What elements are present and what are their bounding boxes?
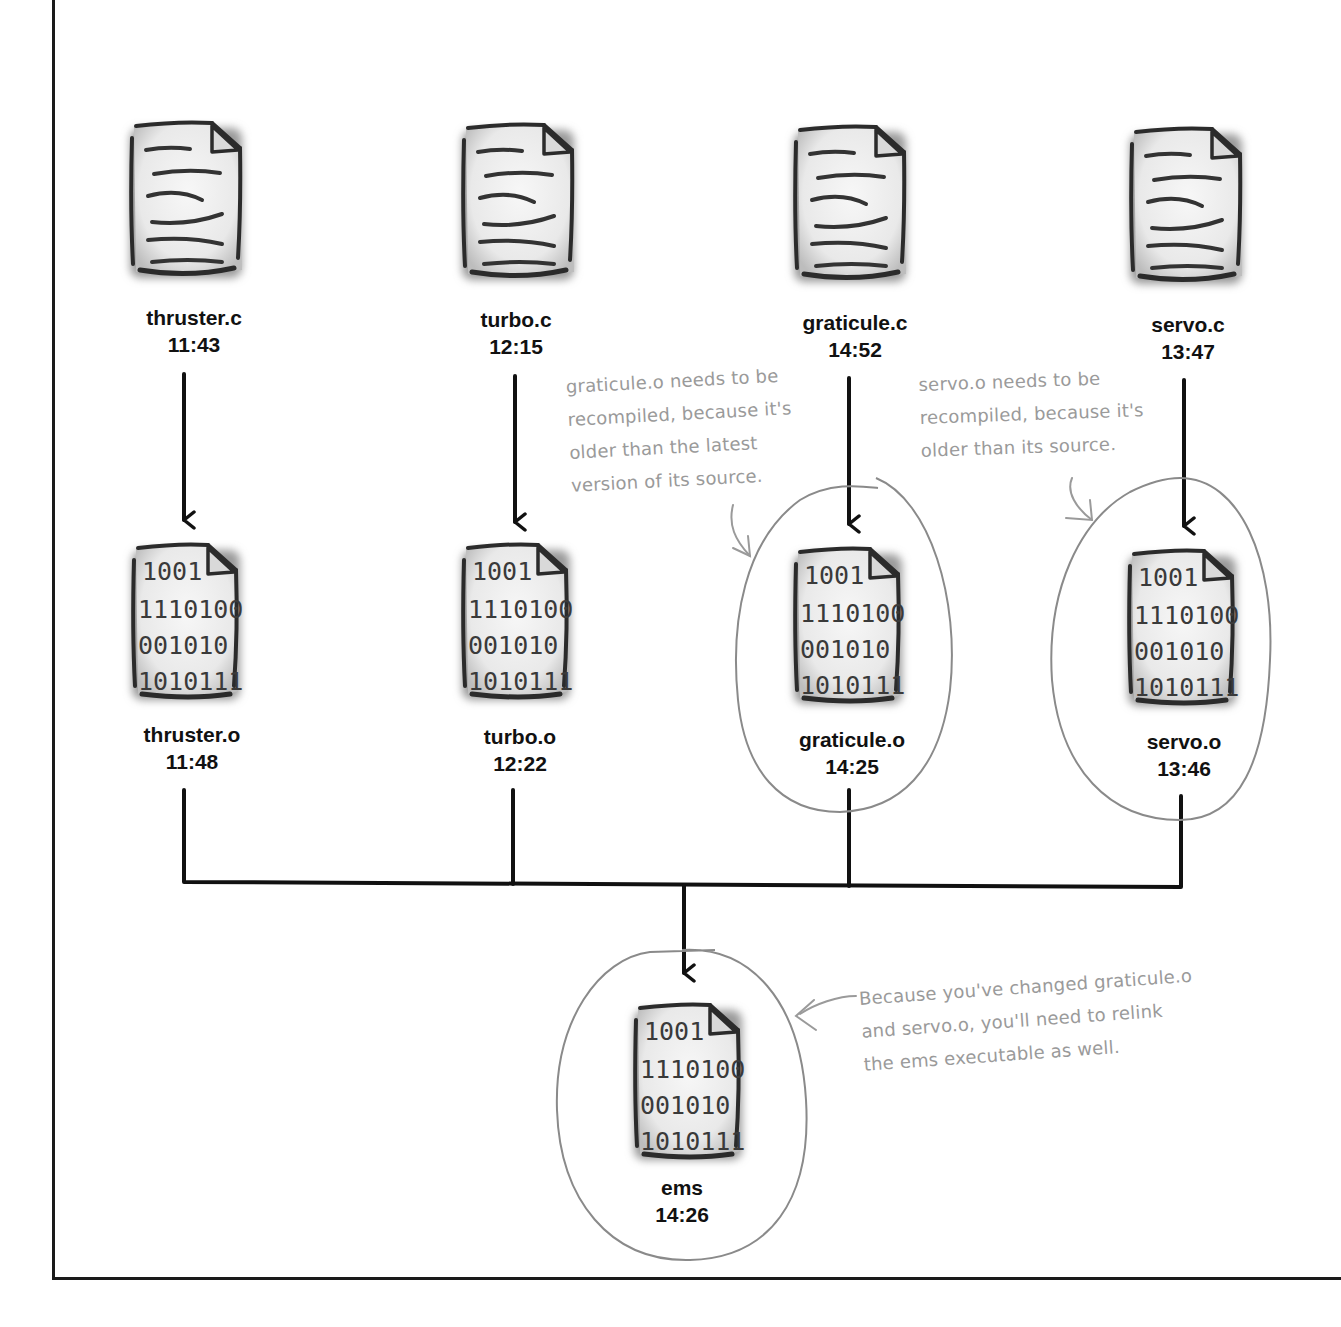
object-label-servo: servo.o 13:46 — [1084, 728, 1284, 782]
file-time: 12:15 — [416, 333, 616, 360]
source-label-thruster: thruster.c 11:43 — [94, 304, 294, 358]
file-time: 11:43 — [94, 331, 294, 358]
svg-text:001010: 001010 — [800, 635, 890, 664]
svg-text:001010: 001010 — [1134, 637, 1224, 666]
file-name: thruster.c — [94, 304, 294, 331]
file-name: ems — [582, 1174, 782, 1201]
file-time: 14:25 — [752, 753, 952, 780]
file-time: 11:48 — [92, 748, 292, 775]
svg-text:1110100: 1110100 — [1134, 601, 1239, 630]
svg-text:001010: 001010 — [640, 1091, 730, 1120]
object-label-thruster: thruster.o 11:48 — [92, 721, 292, 775]
svg-text:1010111: 1010111 — [468, 667, 573, 696]
svg-text:1010111: 1010111 — [1134, 673, 1239, 702]
svg-text:1001: 1001 — [804, 561, 864, 590]
file-name: turbo.c — [416, 306, 616, 333]
source-file-icon-graticule — [794, 126, 906, 282]
executable-file-icon-ems: 1001 1110100 001010 1010111 — [634, 1004, 745, 1160]
file-name: servo.o — [1084, 728, 1284, 755]
svg-text:1001: 1001 — [644, 1017, 704, 1046]
object-file-icon-thruster: 1001 1110100 001010 1010111 — [132, 544, 243, 700]
object-file-icon-servo: 1001 1110100 001010 1010111 — [1128, 550, 1239, 706]
object-file-icon-graticule: 1001 1110100 001010 1010111 — [794, 548, 905, 704]
object-file-icon-turbo: 1001 1110100 001010 1010111 — [462, 544, 573, 700]
file-name: turbo.o — [420, 723, 620, 750]
svg-text:1110100: 1110100 — [468, 595, 573, 624]
object-label-graticule: graticule.o 14:25 — [752, 726, 952, 780]
link-connector — [184, 790, 1181, 973]
source-label-turbo: turbo.c 12:15 — [416, 306, 616, 360]
annotation-graticule: graticule.o needs to be recompiled, beca… — [565, 358, 796, 502]
file-time: 13:46 — [1084, 755, 1284, 782]
file-name: graticule.o — [752, 726, 952, 753]
source-file-icon-turbo — [462, 124, 574, 280]
file-name: thruster.o — [92, 721, 292, 748]
svg-text:001010: 001010 — [138, 631, 228, 660]
executable-label-ems: ems 14:26 — [582, 1174, 782, 1228]
svg-text:001010: 001010 — [468, 631, 558, 660]
file-name: servo.c — [1088, 311, 1288, 338]
source-label-servo: servo.c 13:47 — [1088, 311, 1288, 365]
source-label-graticule: graticule.c 14:52 — [755, 309, 955, 363]
svg-text:1001: 1001 — [1138, 563, 1198, 592]
object-label-turbo: turbo.o 12:22 — [420, 723, 620, 777]
diagram-canvas: 1001 1110100 001010 1010111 1001 1110100… — [0, 0, 1341, 1327]
svg-text:1001: 1001 — [142, 557, 202, 586]
svg-text:1110100: 1110100 — [800, 599, 905, 628]
svg-text:1010111: 1010111 — [138, 667, 243, 696]
svg-text:1110100: 1110100 — [138, 595, 243, 624]
svg-text:1010111: 1010111 — [640, 1127, 745, 1156]
file-time: 14:26 — [582, 1201, 782, 1228]
file-time: 12:22 — [420, 750, 620, 777]
svg-text:1001: 1001 — [472, 557, 532, 586]
file-name: graticule.c — [755, 309, 955, 336]
source-file-icon-thruster — [130, 122, 242, 278]
svg-text:1010111: 1010111 — [800, 671, 905, 700]
source-file-icon-servo — [1130, 128, 1242, 284]
annotation-servo: servo.o needs to be recompiled, because … — [918, 360, 1145, 467]
svg-text:1110100: 1110100 — [640, 1055, 745, 1084]
